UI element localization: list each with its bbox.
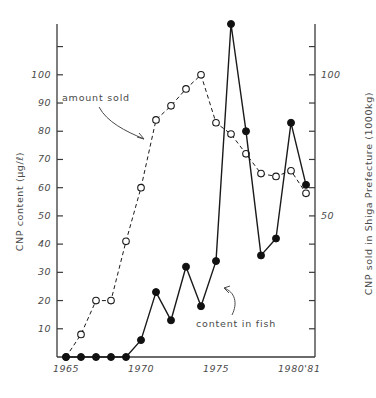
x-tick-label-1980: 1980'81 [269,363,329,374]
content-in-fish-line [66,24,306,357]
content-in-fish-arrow [224,288,235,315]
marker-filled-1969 [123,354,130,361]
x-tick-label-1975: 1975 [186,363,246,374]
left-tick-label-60: 60 [21,182,51,193]
marker-filled-1971 [153,289,160,296]
left-tick-label-20: 20 [21,295,51,306]
x-tick-label-1965: 1965 [36,363,96,374]
left-tick-label-40: 40 [21,238,51,249]
left-tick-label-50: 50 [21,210,51,221]
marker-open-1978 [258,170,265,177]
marker-open-1967 [93,297,100,304]
series-content-in-fish [63,21,310,361]
left-axis-title: CNP content (µg/ℓ) [14,122,25,282]
marker-open-1966 [78,331,85,338]
marker-filled-1980 [288,119,295,126]
left-tick-label-90: 90 [21,97,51,108]
marker-filled-1965 [63,354,70,361]
annotation-arrows [99,107,235,315]
left-tick-label-10: 10 [21,323,51,334]
right-tick-label-100: 100 [321,69,355,80]
marker-open-1968 [108,297,115,304]
annotation-content-in-fish: content in fish [196,318,276,329]
marker-filled-1967 [93,354,100,361]
marker-filled-1966 [78,354,85,361]
series-amount-sold [63,71,309,360]
right-axis-ticks [309,47,315,329]
marker-filled-1978 [258,252,265,259]
marker-filled-1970 [138,337,145,344]
axes [57,24,315,357]
marker-filled-1979 [273,235,280,242]
amount-sold-line [66,75,306,357]
left-tick-label-30: 30 [21,266,51,277]
marker-open-1979 [273,173,280,180]
right-axis-title: CNP sold in Shiga Prefecture (1000kg) [363,79,374,309]
right-tick-label-50: 50 [321,210,355,221]
chart-figure: CNP content (µg/ℓ) CNP sold in Shiga Pre… [0,0,376,398]
marker-open-1980 [288,167,295,174]
left-tick-label-70: 70 [21,153,51,164]
left-tick-label-80: 80 [21,125,51,136]
marker-filled-1981 [303,181,310,188]
marker-filled-1975 [213,258,220,265]
x-tick-label-1970: 1970 [111,363,171,374]
left-axis-ticks [57,47,63,329]
amount-sold-arrow [99,107,144,139]
chart-plot-area [0,0,376,398]
marker-filled-1972 [168,317,175,324]
marker-open-1973 [183,86,190,93]
annotation-amount-sold: amount sold [62,92,130,103]
marker-filled-1968 [108,354,115,361]
marker-open-1981 [303,190,310,197]
marker-filled-1976 [228,21,235,28]
marker-filled-1973 [183,263,190,270]
marker-open-1974 [198,71,205,78]
marker-open-1971 [153,117,160,124]
marker-open-1972 [168,103,175,110]
marker-open-1975 [213,119,220,126]
marker-open-1970 [138,184,145,191]
left-tick-label-100: 100 [21,69,51,80]
marker-filled-1977 [243,128,250,135]
marker-filled-1974 [198,303,205,310]
marker-open-1976 [228,131,235,138]
marker-open-1969 [123,238,130,245]
